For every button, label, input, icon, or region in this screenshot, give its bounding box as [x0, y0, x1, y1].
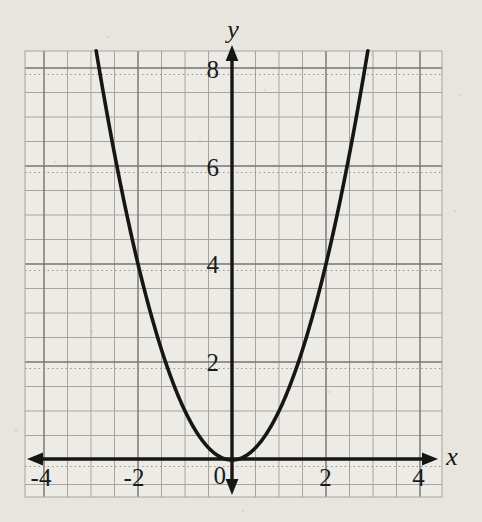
y-tick-label-2: 2 [207, 349, 220, 376]
speckle [54, 161, 56, 163]
speckle [299, 480, 301, 482]
speckle [91, 330, 93, 332]
speckle [329, 391, 331, 393]
speckle [349, 239, 351, 241]
y-tick-label-8: 8 [207, 56, 220, 83]
x-tick-label-neg2: -2 [124, 464, 145, 491]
origin-label: 0 [214, 462, 227, 489]
speckle [139, 239, 141, 241]
speckle [242, 510, 244, 512]
y-tick-label-4: 4 [207, 251, 220, 278]
textbook-figure-page: y x 8 6 4 2 -4 -2 0 2 4 [0, 0, 482, 522]
x-axis-label: x [445, 442, 458, 471]
y-axis-label: y [224, 15, 239, 44]
x-tick-label-2: 2 [319, 464, 332, 491]
parabola-graph-canvas: y x 8 6 4 2 -4 -2 0 2 4 [0, 0, 482, 522]
speckle [420, 300, 422, 302]
speckle [15, 430, 17, 432]
speckle [107, 36, 109, 38]
x-tick-label-neg4: -4 [31, 464, 52, 491]
speckle [459, 94, 461, 96]
speckle [199, 140, 201, 142]
speckle [371, 54, 373, 56]
x-tick-label-4: 4 [412, 464, 425, 491]
y-tick-label-6: 6 [207, 154, 220, 181]
speckle [264, 89, 266, 91]
speckle [454, 210, 456, 212]
